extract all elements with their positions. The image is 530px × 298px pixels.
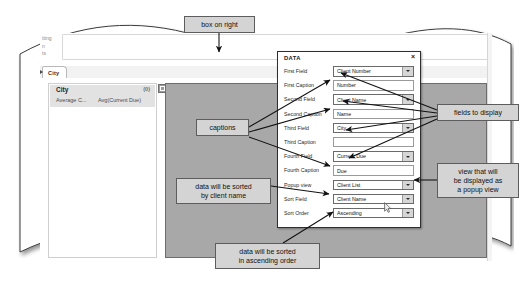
field-label: Second Field [284,96,315,102]
dialog-title: DATA [284,55,301,61]
field-value: Due [337,168,347,174]
list-body[interactable] [50,107,155,255]
field-text-input[interactable] [333,137,414,148]
field-label: Third Caption [284,139,316,145]
field-value: Number [337,82,356,88]
list-column-header-1: Average C... [56,97,86,103]
mouse-cursor-icon [384,202,392,213]
chevron-down-icon[interactable] [402,209,413,218]
right-edge-strip [487,33,492,261]
field-value: Client Name [337,97,366,103]
chevron-down-icon[interactable] [402,124,413,133]
field-value: Client Number [337,68,371,74]
field-value: Ascending [337,210,362,216]
field-dropdown[interactable]: Client Name [333,194,414,205]
dialog-row: Popup viewClient List [278,179,420,193]
field-value: City [337,125,346,131]
dialog-row: Second FieldClient Name [278,93,420,107]
chevron-down-icon[interactable] [402,95,413,104]
dialog-row: Fourth FieldCurrent Due [278,150,420,164]
dialog-row: First FieldClient Number [278,65,420,79]
torn-paper-page: tting n ts City City (0) Average C... [18,14,514,282]
application-window: tting n ts City City (0) Average C... [40,33,492,261]
list-title: City [56,86,68,93]
annotation-popup-view: view that willbe displayed asa popup vie… [437,163,519,198]
field-label: Fourth Caption [284,167,319,173]
dialog-row: Third FieldCity [278,122,420,136]
chevron-down-icon[interactable] [402,67,413,76]
chevron-down-icon[interactable] [402,152,413,161]
field-text-input[interactable]: Name [333,109,414,120]
dialog-row: Fourth CaptionDue [278,164,420,178]
dialog-row: Sort FieldClient Name [278,193,420,207]
field-dropdown[interactable]: Ascending [333,208,414,219]
field-label: Fourth Field [284,153,312,159]
field-label: Sort Order [284,210,309,216]
dialog-row: Third Caption [278,136,420,150]
annotation-sorted-ascending: data will be sortedin ascending order [215,243,320,269]
field-value: Client List [337,182,360,188]
toolbar-hint-line-3: ts [42,50,80,58]
field-dropdown[interactable]: Client Name [333,94,414,105]
field-value: Current Due [337,153,366,159]
annotation-fields-to-display: fields to display [437,104,519,121]
dialog-row: Second CaptionName [278,108,420,122]
screenshot-root: tting n ts City City (0) Average C... [0,0,530,298]
field-dropdown[interactable]: City [333,123,414,134]
dialog-row: Sort OrderAscending [278,207,420,221]
chevron-down-icon[interactable] [402,195,413,204]
field-dropdown[interactable]: Client List [333,180,414,191]
field-text-input[interactable]: Number [333,80,414,91]
field-label: Second Caption [284,111,322,117]
list-header: City (0) Average C... Avg(Current Due) [50,85,155,107]
field-label: Popup view [284,182,311,188]
annotation-box-on-right: box on right [184,16,255,33]
toolbar-hint-text: tting n ts [42,35,80,65]
list-column-header-2: Avg(Current Due) [98,97,141,103]
app-toolbar: tting n ts [40,33,492,67]
toolbar-hint-line-1: tting [42,35,80,43]
field-value: Client Name [337,196,366,202]
field-label: Sort Field [284,196,307,202]
city-list-panel[interactable]: City (0) Average C... Avg(Current Due) [48,83,157,258]
field-value: Name [337,111,351,117]
toolbar-hint-line-2: n [42,43,80,51]
close-icon[interactable]: × [411,53,415,61]
field-dropdown[interactable]: Current Due [333,151,414,162]
annotation-sorted-by-client-name: data will be sortedby client name [176,178,271,204]
chevron-down-icon[interactable] [402,181,413,190]
annotation-captions: captions [196,119,249,136]
field-label: Third Field [284,125,309,131]
field-label: First Caption [284,82,314,88]
field-text-input[interactable]: Due [333,165,414,176]
field-dropdown[interactable]: Client Number [333,66,414,77]
dialog-row: First CaptionNumber [278,79,420,93]
dialog-field-rows: First FieldClient NumberFirst CaptionNum… [278,65,420,221]
data-dialog[interactable]: DATA × First FieldClient NumberFirst Cap… [277,51,421,228]
toolbar-panel [62,34,488,60]
list-count: (0) [143,86,150,92]
field-label: First Field [284,68,307,74]
app-body: City (0) Average C... Avg(Current Due) [40,78,492,261]
